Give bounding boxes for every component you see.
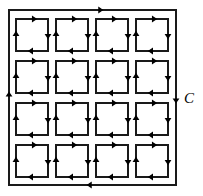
figure-container: C: [0, 0, 203, 196]
oriented-grid-diagram: C: [0, 0, 203, 196]
figure-background: [0, 0, 203, 196]
curve-label-C: C: [184, 90, 195, 106]
